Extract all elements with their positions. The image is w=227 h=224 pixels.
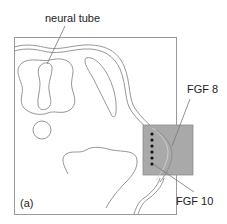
diagram-canvas xyxy=(0,0,227,224)
panel-label: (a) xyxy=(20,197,33,209)
lower-ectoderm-line-2 xyxy=(138,178,164,214)
somite-outline xyxy=(18,59,75,114)
neural-tube-label: neural tube xyxy=(45,12,100,24)
ectoderm-inner-line xyxy=(14,49,152,132)
fgf10-label: FGF 10 xyxy=(176,195,213,207)
fgf8-label: FGF 8 xyxy=(187,83,218,95)
neural-tube-outline xyxy=(38,63,52,110)
ventral-tissue-outline xyxy=(63,147,137,208)
lateral-mesoderm-shape xyxy=(85,58,116,117)
neural-tube-leader-line xyxy=(47,26,65,64)
notochord-circle xyxy=(33,121,51,139)
ectoderm-outer-line xyxy=(14,45,156,130)
lower-ectoderm-line-1 xyxy=(134,178,160,214)
embryo-diagram: neural tube FGF 8 FGF 10 (a) xyxy=(0,0,227,224)
